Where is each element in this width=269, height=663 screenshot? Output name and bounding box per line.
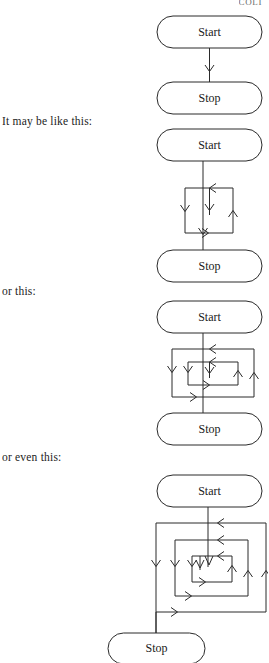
diagram-3-start-label: Start <box>198 310 221 324</box>
diagram-1-stop-label: Stop <box>198 91 220 105</box>
diagram-4-stop-label: Stop <box>145 641 167 655</box>
diagram-1: Start Stop <box>157 16 262 114</box>
diagram-1-start-label: Start <box>198 25 221 39</box>
document-page: COLI It may be like this: or this: or ev… <box>0 0 268 663</box>
diagram-2: Start Stop <box>157 129 262 282</box>
diagram-3-inner-loop-rect <box>188 362 238 385</box>
diagram-4-outer-arrow-right-up <box>262 571 269 578</box>
flowchart-canvas: Start Stop Start Stop <box>0 0 268 663</box>
diagram-3-stop-label: Stop <box>198 422 220 436</box>
diagram-2-start-label: Start <box>198 138 221 152</box>
diagram-4-loop-rect-middle <box>175 540 248 596</box>
diagram-3-outer-loop-rect <box>172 349 254 397</box>
diagram-4-spine-arrowhead <box>205 556 213 565</box>
diagram-3: Start Stop <box>157 301 262 445</box>
diagram-4: Start <box>108 475 268 663</box>
diagram-4-loop-rect-inner <box>192 556 232 582</box>
diagram-4-loop-rect-outer <box>156 523 266 612</box>
diagram-2-stop-label: Stop <box>198 259 220 273</box>
diagram-4-start-label: Start <box>198 484 221 498</box>
